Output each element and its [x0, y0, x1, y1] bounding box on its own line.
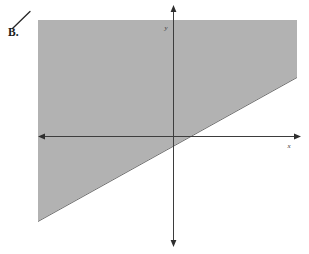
shaded-region: [38, 20, 297, 221]
y-axis-bottom-arrow-icon: [171, 240, 177, 247]
y-axis-top-arrow-icon: [171, 5, 177, 12]
x-axis-label: x: [286, 142, 291, 150]
x-axis-right-arrow-icon: [294, 134, 301, 140]
problem-item-label: B.: [8, 27, 19, 39]
graph-canvas: y x: [0, 0, 309, 254]
inequality-graph-figure: y x B.: [0, 0, 309, 254]
